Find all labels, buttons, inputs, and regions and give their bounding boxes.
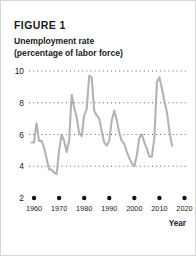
unemployment-line-chart: 108642 1960197019801990200020102020 — [1, 59, 196, 235]
figure-subtitle: Unemployment rate (percentage of labor f… — [14, 36, 184, 59]
x-tick-label-2010: 2010 — [151, 204, 167, 213]
x-axis-title: Year — [169, 219, 186, 228]
x-tick-label-1990: 1990 — [101, 204, 117, 213]
x-tick-dot-2000 — [132, 196, 136, 200]
y-axis-tick-labels: 108642 — [15, 66, 25, 203]
x-axis-tick-markers — [32, 196, 187, 200]
x-tick-label-1980: 1980 — [76, 204, 92, 213]
x-tick-dot-2010 — [157, 196, 161, 200]
figure-subtitle-line-2: (percentage of labor force) — [14, 48, 184, 60]
x-tick-dot-1960 — [32, 196, 36, 200]
chart-plot-area: 108642 1960197019801990200020102020 — [1, 59, 196, 235]
y-tick-label-6: 6 — [19, 130, 24, 140]
figure-subtitle-line-1: Unemployment rate — [14, 36, 184, 48]
x-tick-dot-1970 — [57, 196, 61, 200]
gridlines-group — [29, 71, 187, 166]
x-tick-dot-2020 — [182, 196, 186, 200]
x-tick-dot-1980 — [82, 196, 86, 200]
x-tick-dot-1990 — [107, 196, 111, 200]
series-line-unemployment-rate — [32, 76, 172, 174]
series-unemployment-rate — [32, 76, 172, 174]
figure-label: FIGURE 1 — [14, 19, 66, 31]
figure-card: FIGURE 1 Unemployment rate (percentage o… — [0, 0, 196, 256]
x-axis-tick-labels: 1960197019801990200020102020 — [26, 204, 193, 213]
x-tick-label-1960: 1960 — [26, 204, 42, 213]
x-tick-label-1970: 1970 — [51, 204, 67, 213]
y-tick-label-8: 8 — [19, 98, 24, 108]
y-tick-label-4: 4 — [19, 161, 24, 171]
x-tick-label-2020: 2020 — [176, 204, 192, 213]
y-tick-label-2: 2 — [19, 193, 24, 203]
x-tick-label-2000: 2000 — [126, 204, 142, 213]
y-tick-label-10: 10 — [15, 66, 25, 76]
